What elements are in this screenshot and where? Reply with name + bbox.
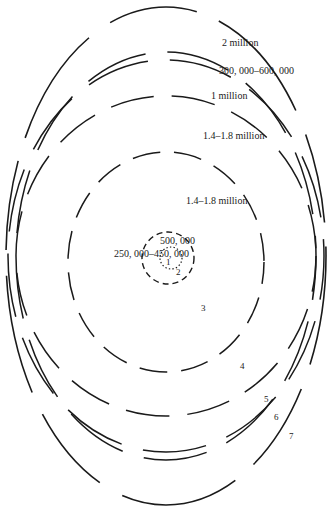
label-300k-600k: 300, 000–600, 000	[219, 66, 294, 76]
label-1-4-1-8-million-zone3: 1.4–1.8 million	[186, 196, 247, 206]
zone-number-2: 2	[176, 268, 181, 277]
zone-number-4: 4	[240, 362, 245, 371]
label-1-4-1-8-million-zone4: 1.4–1.8 million	[203, 131, 264, 141]
label-2-million: 2 million	[222, 38, 258, 48]
zone-number-5: 5	[264, 395, 269, 404]
label-250k-450k: 250, 000–450, 000	[114, 249, 189, 259]
label-1-million: 1 million	[211, 91, 247, 101]
label-500k: 500, 000	[160, 236, 195, 246]
zone-number-6: 6	[274, 413, 279, 422]
zone-number-7: 7	[289, 432, 294, 441]
zone-number-3: 3	[201, 304, 206, 313]
zone-number-1: 1	[166, 258, 171, 267]
